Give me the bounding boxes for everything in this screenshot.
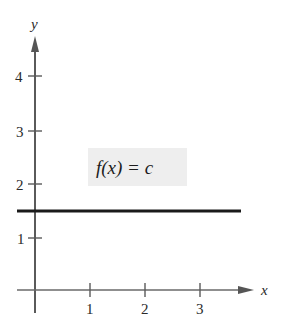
y-tick-label-1: 1 bbox=[17, 231, 25, 247]
y-tick-label-3: 3 bbox=[16, 124, 24, 140]
function-label: f(x) = c bbox=[96, 157, 154, 179]
x-axis-arrow-icon bbox=[238, 286, 254, 294]
x-axis-label: x bbox=[260, 282, 268, 298]
x-tick-label-1: 1 bbox=[86, 301, 94, 317]
y-tick-label-2: 2 bbox=[16, 177, 24, 193]
constant-function-graph: y x 4 3 2 1 1 2 3 f(x) = c bbox=[0, 0, 281, 326]
x-tick-label-3: 3 bbox=[196, 301, 204, 317]
y-axis-arrow-icon bbox=[31, 36, 39, 52]
y-axis-label: y bbox=[29, 16, 38, 32]
y-tick-label-4: 4 bbox=[15, 69, 23, 85]
x-tick-label-2: 2 bbox=[141, 301, 149, 317]
